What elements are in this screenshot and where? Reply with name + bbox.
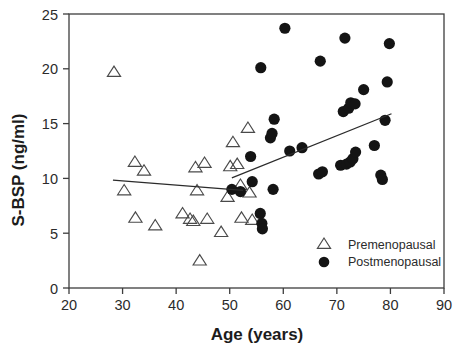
- legend-entry-postmenopausal: Postmenopausal: [319, 255, 441, 269]
- data-point-premenopausal: [193, 255, 206, 265]
- data-point-postmenopausal: [315, 56, 326, 67]
- chart-legend: Premenopausal Postmenopausal: [317, 238, 441, 269]
- data-point-postmenopausal: [358, 84, 369, 95]
- data-point-premenopausal: [128, 156, 141, 166]
- data-point-postmenopausal: [384, 38, 395, 49]
- data-point-postmenopausal: [257, 223, 268, 234]
- y-tick-label: 5: [50, 226, 58, 242]
- data-point-postmenopausal: [245, 151, 256, 162]
- legend-label-postmenopausal: Postmenopausal: [348, 255, 441, 269]
- filled-circle-icon: [319, 257, 330, 268]
- x-axis-ticks: 2030405060708090: [61, 288, 452, 313]
- y-tick-label: 0: [50, 281, 58, 297]
- y-tick-label: 20: [42, 61, 58, 77]
- x-tick-label: 40: [168, 297, 184, 313]
- legend-label-premenopausal: Premenopausal: [348, 238, 436, 252]
- regression-line-premenopausal: [113, 180, 243, 190]
- data-point-postmenopausal: [339, 33, 350, 44]
- data-point-postmenopausal: [235, 186, 246, 197]
- x-tick-label: 20: [61, 297, 77, 313]
- data-point-premenopausal: [149, 220, 162, 230]
- data-point-postmenopausal: [247, 176, 258, 187]
- data-point-premenopausal: [201, 213, 214, 223]
- y-axis-title: S-BSP (ng/ml): [9, 113, 28, 226]
- data-point-premenopausal: [176, 207, 189, 217]
- data-point-postmenopausal: [317, 166, 328, 177]
- data-point-postmenopausal: [269, 114, 280, 125]
- data-point-postmenopausal: [369, 140, 380, 151]
- data-point-premenopausal: [107, 66, 120, 76]
- legend-entry-premenopausal: Premenopausal: [317, 238, 435, 252]
- x-tick-label: 60: [275, 297, 291, 313]
- regression-line-postmenopausal: [232, 114, 392, 178]
- scatter-plot-figure: S-BSP (ng/ml) Age (years) 20304050607080…: [0, 0, 461, 348]
- data-point-postmenopausal: [377, 174, 388, 185]
- y-tick-label: 10: [42, 171, 58, 187]
- data-point-postmenopausal: [268, 184, 279, 195]
- data-point-postmenopausal: [350, 147, 361, 158]
- y-axis-ticks: 0510152025: [42, 7, 69, 297]
- data-point-premenopausal: [235, 212, 248, 222]
- chart-canvas: S-BSP (ng/ml) Age (years) 20304050607080…: [0, 0, 461, 348]
- data-point-postmenopausal: [255, 62, 266, 73]
- data-point-postmenopausal: [349, 98, 360, 109]
- data-point-premenopausal: [129, 212, 142, 222]
- x-tick-label: 70: [329, 297, 345, 313]
- y-tick-label: 15: [42, 116, 58, 132]
- x-tick-label: 80: [382, 297, 398, 313]
- data-point-postmenopausal: [279, 23, 290, 34]
- data-point-premenopausal: [118, 184, 131, 194]
- data-point-postmenopausal: [266, 128, 277, 139]
- y-tick-label: 25: [42, 7, 58, 23]
- data-point-postmenopausal: [382, 76, 393, 87]
- premenopausal-points: [107, 66, 258, 265]
- x-axis-title: Age (years): [211, 325, 304, 344]
- data-point-postmenopausal: [255, 208, 266, 219]
- x-tick-label: 50: [222, 297, 238, 313]
- data-point-premenopausal: [215, 226, 228, 236]
- x-tick-label: 30: [115, 297, 131, 313]
- open-triangle-icon: [317, 238, 330, 248]
- data-point-premenopausal: [241, 122, 254, 132]
- data-point-premenopausal: [226, 136, 239, 146]
- data-point-premenopausal: [198, 157, 211, 167]
- data-point-premenopausal: [189, 161, 202, 171]
- x-tick-label: 90: [436, 297, 452, 313]
